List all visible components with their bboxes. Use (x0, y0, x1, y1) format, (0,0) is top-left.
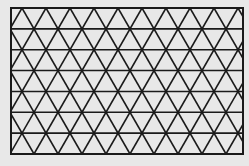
grid-line (130, 8, 214, 154)
grid-line (34, 8, 118, 154)
grid-lines (0, 8, 249, 154)
grid-line (82, 8, 166, 154)
grid-line (46, 8, 130, 154)
grid-line (10, 8, 94, 154)
grid-line (106, 8, 190, 154)
grid-line (0, 8, 10, 154)
grid-line (58, 8, 142, 154)
grid-line (118, 8, 202, 154)
grid-line (142, 8, 226, 154)
grid-line (94, 8, 178, 154)
grid-line (154, 8, 238, 154)
grid-line (70, 8, 154, 154)
grid-line (166, 8, 249, 154)
triangular-grid (0, 0, 249, 166)
grid-line (22, 8, 106, 154)
grid-line (0, 8, 58, 154)
